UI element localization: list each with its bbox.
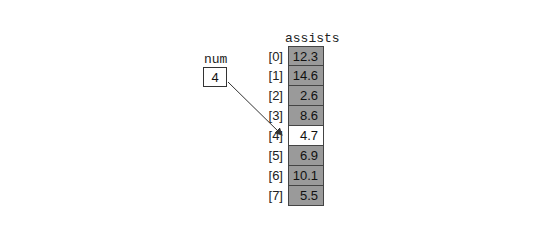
- index-pointer-arrow-icon: [0, 0, 538, 230]
